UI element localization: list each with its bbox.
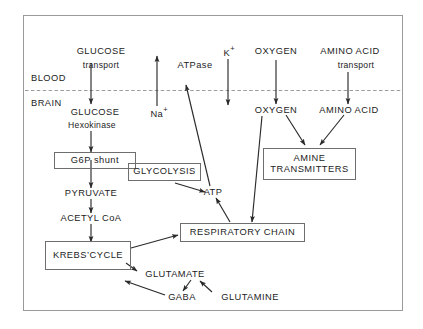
label-oxygen-blood: OXYGEN bbox=[255, 46, 297, 57]
box-krebs-cycle[interactable]: KREBS’CYCLE bbox=[45, 241, 131, 270]
sodium-symbol: Na bbox=[150, 109, 163, 119]
arrow-oxygen-to-amine bbox=[286, 115, 305, 145]
label-atpase: ATPase bbox=[177, 60, 212, 71]
box-amine-transmitters[interactable]: AMINE TRANSMITTERS bbox=[263, 148, 356, 180]
potassium-charge: + bbox=[230, 44, 234, 53]
label-glucose-brain: GLUCOSE bbox=[71, 107, 120, 118]
label-glutamate: GLUTAMATE bbox=[145, 269, 205, 280]
sodium-charge: + bbox=[163, 105, 167, 114]
amine-transmitters-line1: AMINE bbox=[294, 153, 326, 165]
label-hexokinase: Hexokinase bbox=[68, 120, 116, 131]
label-glucose-transport-title: GLUCOSE bbox=[77, 46, 126, 57]
label-potassium: K+ bbox=[223, 43, 234, 58]
label-acetyl-coa: ACETYL CoA bbox=[61, 213, 122, 224]
arrow-glutamine-to-glutamate bbox=[200, 281, 212, 292]
arrow-glutamate-to-gaba bbox=[183, 280, 191, 291]
label-sodium: Na+ bbox=[150, 104, 167, 119]
label-glutamine: GLUTAMINE bbox=[221, 292, 279, 303]
label-atp: ATP bbox=[204, 187, 223, 198]
label-amino-acid-transport-sub: transport bbox=[338, 60, 375, 71]
label-blood: BLOOD bbox=[31, 73, 66, 84]
arrow-gaba-to-glutamate bbox=[125, 281, 165, 295]
potassium-symbol: K bbox=[223, 48, 230, 58]
label-brain: BRAIN bbox=[31, 98, 62, 109]
label-amino-acid-transport-title: AMINO ACID bbox=[320, 46, 379, 57]
label-glucose-transport-sub: transport bbox=[83, 60, 120, 71]
metabolism-diagram: BLOOD BRAIN GLUCOSE transport ATPase K+ … bbox=[0, 0, 423, 329]
arrow-oxygen-to-respiratorychain bbox=[252, 116, 262, 222]
label-pyruvate: PYRUVATE bbox=[65, 188, 117, 199]
box-respiratory-chain[interactable]: RESPIRATORY CHAIN bbox=[180, 223, 305, 242]
label-gaba: GABA bbox=[168, 292, 196, 303]
arrow-glycolysis-to-atp bbox=[175, 183, 205, 192]
arrow-aminoacid-to-amine bbox=[320, 115, 344, 145]
box-glycolysis[interactable]: GLYCOLYSIS bbox=[128, 163, 201, 181]
arrow-krebs-to-respiratorychain bbox=[131, 235, 178, 248]
arrow-respiratorychain-to-atp bbox=[216, 198, 230, 222]
label-amino-acid-brain: AMINO ACID bbox=[319, 105, 378, 116]
label-oxygen-brain: OXYGEN bbox=[255, 105, 297, 116]
amine-transmitters-line2: TRANSMITTERS bbox=[270, 164, 348, 176]
box-g6p-shunt[interactable]: G6P shunt bbox=[54, 152, 136, 169]
